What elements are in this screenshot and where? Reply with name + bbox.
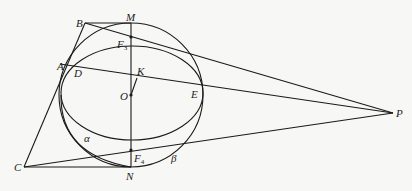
label-alpha: α [84,132,90,144]
segment-bc [24,23,85,167]
point-f3-dot [129,35,132,38]
label-f3: F3 [116,38,128,52]
label-p: P [395,107,403,119]
label-d: D [73,67,82,79]
label-beta: β [170,152,177,164]
line-ap [60,64,393,113]
label-c: C [14,161,22,173]
label-m: M [125,11,136,23]
label-k: K [136,65,145,77]
label-f4: F4 [133,152,145,166]
point-f4-dot [129,148,132,151]
segment-ok [131,78,137,95]
point-o-dot [129,93,132,96]
label-e: E [190,88,198,100]
label-o: O [120,90,128,102]
label-n: N [125,170,134,182]
geometry-diagram: B M F3 A D K O E P C N F4 α β [0,0,412,191]
line-cp [24,113,393,167]
label-b: B [76,17,83,29]
label-a: A [56,60,64,72]
